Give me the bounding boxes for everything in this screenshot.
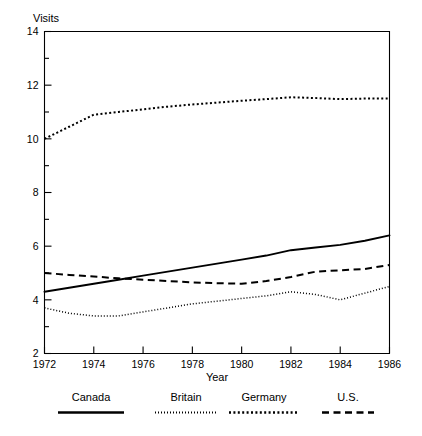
plot-frame xyxy=(45,32,390,354)
x-tick-label: 1980 xyxy=(230,358,254,370)
y-tick-label: 8 xyxy=(33,186,39,198)
x-tick-label: 1974 xyxy=(82,358,106,370)
legend-label-germany: Germany xyxy=(241,391,287,403)
series-line-britain xyxy=(45,286,390,316)
x-tick-label: 1986 xyxy=(378,358,402,370)
chart-legend: CanadaBritainGermanyU.S. xyxy=(58,391,374,413)
y-axis-title: Visits xyxy=(33,12,60,24)
legend-label-us: U.S. xyxy=(337,391,358,403)
x-tick-label: 1972 xyxy=(33,358,57,370)
x-axis-title: Year xyxy=(206,371,229,383)
chart-canvas: Visits 2468101214 1972197419761978198019… xyxy=(0,0,422,436)
series-line-germany xyxy=(45,97,390,139)
legend-label-canada: Canada xyxy=(72,391,111,403)
y-tick-label: 12 xyxy=(27,79,39,91)
y-tick-label: 10 xyxy=(27,133,39,145)
x-tick-label: 1982 xyxy=(279,358,303,370)
y-tick-label: 4 xyxy=(33,294,39,306)
data-series-group xyxy=(45,97,390,316)
y-tick-label: 14 xyxy=(27,25,39,37)
x-tick-label: 1984 xyxy=(329,358,353,370)
x-tick-label: 1978 xyxy=(181,358,205,370)
series-line-us xyxy=(45,265,390,284)
legend-label-britain: Britain xyxy=(170,391,201,403)
line-chart-figure: Visits 2468101214 1972197419761978198019… xyxy=(0,0,422,436)
x-tick-label: 1976 xyxy=(131,358,155,370)
x-axis: 19721974197619781980198219841986 xyxy=(33,347,402,370)
y-tick-label: 6 xyxy=(33,240,39,252)
